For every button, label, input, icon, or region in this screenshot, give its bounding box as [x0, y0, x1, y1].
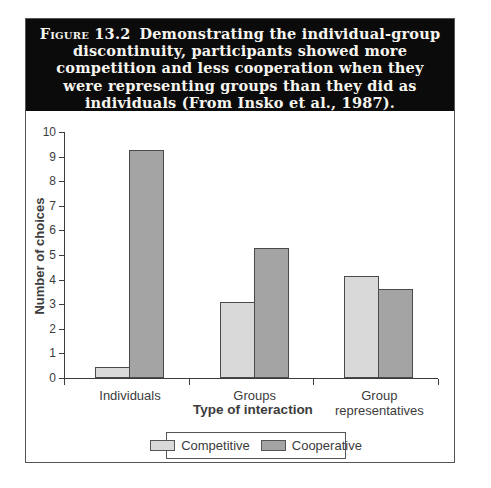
bar-chart: Number of choices Type of interaction Co… — [26, 111, 454, 462]
caption-line: individuals (From Insko et al., 1987). — [26, 94, 454, 111]
bar-cooperative-individuals — [129, 150, 164, 378]
y-axis-tick — [59, 255, 64, 256]
caption-line: were representing groups than they did a… — [26, 77, 454, 94]
y-tick-label: 6 — [32, 222, 56, 238]
y-tick-label: 9 — [32, 149, 56, 165]
caption-line: competition and less cooperation when th… — [26, 59, 454, 76]
x-category-label: Group representatives — [324, 388, 434, 418]
x-category-label: Individuals — [75, 388, 185, 403]
y-axis-tick — [59, 230, 64, 231]
chart-legend: Competitive Cooperative — [166, 432, 346, 459]
legend-label-competitive: Competitive — [181, 438, 250, 453]
y-tick-label: 3 — [32, 296, 56, 312]
y-axis-tick — [59, 132, 64, 133]
x-category-label: Groups — [200, 388, 310, 403]
y-axis-line — [64, 132, 65, 378]
figure-box: Figure 13.2Demonstrating the individual-… — [25, 18, 455, 463]
y-axis-tick — [59, 206, 64, 207]
bar-cooperative-groups — [254, 248, 289, 378]
x-axis-line — [64, 378, 438, 379]
caption-line: discontinuity, participants showed more — [26, 42, 454, 59]
legend-swatch-competitive — [150, 440, 175, 451]
y-tick-label: 2 — [32, 321, 56, 337]
bar-competitive-individuals — [95, 367, 130, 378]
figure-caption: Figure 13.2Demonstrating the individual-… — [26, 19, 454, 111]
legend-label-cooperative: Cooperative — [292, 438, 362, 453]
x-axis-tick — [438, 379, 439, 385]
figure-number-label: Figure 13.2 — [40, 25, 131, 42]
x-axis-tick — [313, 379, 314, 385]
y-axis-tick — [59, 157, 64, 158]
x-axis-tick — [64, 379, 65, 385]
bar-competitive-groups — [220, 302, 255, 378]
y-tick-label: 8 — [32, 173, 56, 189]
legend-swatch-cooperative — [261, 440, 286, 451]
y-tick-label: 10 — [32, 124, 56, 140]
y-axis-tick — [59, 280, 64, 281]
y-tick-label: 0 — [32, 370, 56, 386]
y-axis-tick — [59, 304, 64, 305]
legend-item-cooperative: Cooperative — [261, 438, 362, 453]
caption-line: Figure 13.2Demonstrating the individual-… — [26, 25, 454, 42]
y-tick-label: 1 — [32, 345, 56, 361]
y-tick-label: 4 — [32, 272, 56, 288]
y-axis-tick — [59, 181, 64, 182]
y-axis-tick — [59, 329, 64, 330]
legend-item-competitive: Competitive — [150, 438, 250, 453]
y-tick-label: 7 — [32, 198, 56, 214]
bar-cooperative-group-representatives — [378, 289, 413, 378]
y-tick-label: 5 — [32, 247, 56, 263]
caption-text: Demonstrating the individual-group — [139, 25, 440, 42]
bar-competitive-group-representatives — [344, 276, 379, 378]
y-axis-tick — [59, 353, 64, 354]
x-axis-tick — [189, 379, 190, 385]
